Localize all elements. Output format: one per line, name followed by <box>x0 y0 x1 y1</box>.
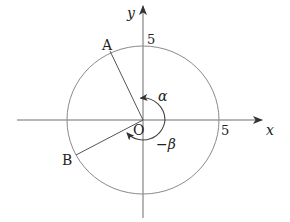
x-radius-label: 5 <box>221 123 229 138</box>
point-B-label: B <box>62 152 72 168</box>
x-axis-label: x <box>266 122 274 138</box>
origin-label: O <box>133 122 144 138</box>
minus-beta-label: −β <box>156 136 176 152</box>
y-axis-label: y <box>126 5 136 21</box>
ray-OA <box>110 51 143 120</box>
y-radius-label: 5 <box>147 32 155 47</box>
alpha-label: α <box>158 88 168 104</box>
coordinate-diagram: y x 5 5 A B O α −β <box>0 0 290 222</box>
point-A-label: A <box>101 37 113 53</box>
